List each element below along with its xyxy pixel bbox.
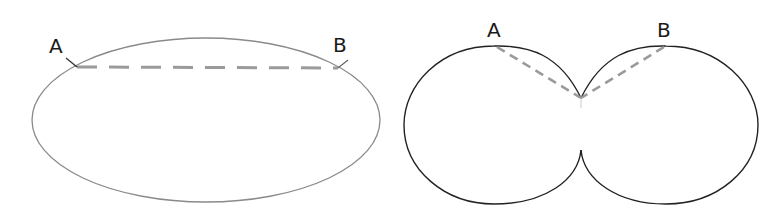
ellipse-outline	[32, 38, 380, 202]
point-label-b: B	[333, 33, 347, 57]
tick-mark-b	[338, 60, 348, 68]
point-label-a: A	[49, 34, 63, 58]
dashed-chord-ab	[77, 67, 338, 68]
dashed-line-a	[497, 47, 581, 98]
right-lobe-outline	[581, 46, 758, 204]
left-lobe-outline	[404, 46, 581, 204]
diagram-canvas: A B A B	[0, 0, 782, 211]
point-label-a: A	[487, 18, 501, 42]
tick-mark-a	[66, 58, 77, 67]
right-figure-lobes: A B	[404, 18, 758, 204]
left-figure-ellipse: A B	[32, 33, 380, 202]
dashed-line-b	[581, 47, 664, 98]
point-label-b: B	[657, 18, 671, 42]
